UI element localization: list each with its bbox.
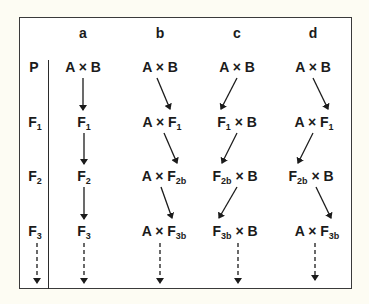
- arrow-d-f2-f3: [316, 187, 331, 218]
- arrow-b-f2-f3: [161, 187, 172, 218]
- arrows-layer: [0, 0, 369, 304]
- arrow-b-p-f1: [157, 78, 170, 109]
- arrow-c-f1-f2: [222, 133, 237, 163]
- arrow-c-p-f1: [221, 78, 237, 109]
- arrow-d-f1-f2: [298, 133, 313, 163]
- arrow-d-p-f1: [313, 78, 328, 109]
- arrow-b-f1-f2: [164, 133, 177, 163]
- arrow-c-f2-f3: [219, 187, 237, 218]
